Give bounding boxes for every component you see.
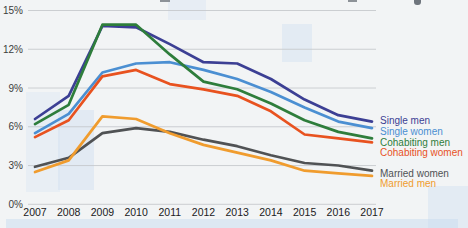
series-line-married-women xyxy=(35,128,372,171)
y-axis-tick-label: 15% xyxy=(3,5,23,16)
unemployment-by-marital-status-chart: 0%3%6%9%12%15%20072008200920102011201220… xyxy=(0,0,468,228)
x-axis-tick-label: 2012 xyxy=(192,206,216,218)
legend-label-single-men: Single men xyxy=(380,115,430,126)
series-line-single-men xyxy=(35,26,372,122)
legend-label-cohabiting-women: Cohabiting women xyxy=(380,147,463,158)
x-axis-tick-label: 2014 xyxy=(259,206,283,218)
x-axis-tick-label: 2007 xyxy=(23,206,47,218)
x-axis-tick-label: 2009 xyxy=(91,206,115,218)
x-axis-tick-label: 2015 xyxy=(293,206,317,218)
y-axis-tick-label: 6% xyxy=(9,121,24,132)
x-axis-tick-label: 2017 xyxy=(360,206,384,218)
x-axis-tick-label: 2010 xyxy=(124,206,148,218)
legend-label-single-women: Single women xyxy=(380,126,443,137)
y-axis-tick-label: 0% xyxy=(9,199,24,210)
series-line-cohabiting-men xyxy=(35,25,372,139)
x-axis-tick-label: 2016 xyxy=(327,206,351,218)
x-axis-tick-label: 2008 xyxy=(57,206,81,218)
y-axis-tick-label: 9% xyxy=(9,83,24,94)
y-axis-tick-label: 12% xyxy=(3,44,23,55)
line-chart-canvas: 0%3%6%9%12%15%20072008200920102011201220… xyxy=(0,0,468,228)
y-axis-tick-label: 3% xyxy=(9,160,24,171)
x-axis-tick-label: 2011 xyxy=(159,206,182,218)
legend-label-married-men: Married men xyxy=(380,178,436,189)
x-axis-tick-label: 2013 xyxy=(226,206,250,218)
